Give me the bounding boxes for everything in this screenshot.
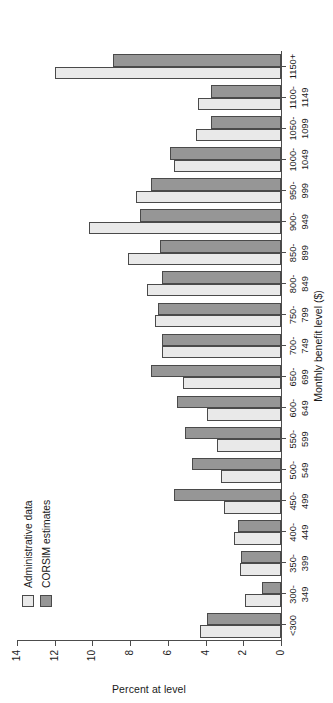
bar-administrative-data: [55, 67, 281, 79]
figure-rotator: Administrative data CORSIM estimates Per…: [0, 0, 333, 703]
plot-area: 02468101214<300300-349350-399400-449450-…: [17, 51, 281, 641]
category-axis-label: 650-699: [288, 368, 311, 387]
category-axis-label: 750-799: [288, 306, 311, 325]
bar-administrative-data: [200, 626, 281, 638]
bar-corsim-estimates: [262, 582, 281, 594]
value-axis-tick: 6: [168, 641, 169, 646]
category-axis-tick: [281, 593, 286, 594]
bar-administrative-data: [155, 315, 281, 327]
category-axis-tick: [281, 128, 286, 129]
bar-administrative-data: [147, 284, 281, 296]
value-axis-tick: 12: [55, 641, 56, 646]
category-axis-tick: [281, 252, 286, 253]
category-axis-label: 1150+: [288, 54, 300, 79]
bar-administrative-data: [136, 191, 281, 203]
category-axis-tick: [281, 469, 286, 470]
bar-corsim-estimates: [238, 520, 281, 532]
bar-group: 800-849: [17, 268, 281, 299]
bar-group: 350-399: [17, 548, 281, 579]
bar-corsim-estimates: [158, 303, 281, 315]
category-axis-tick: [281, 345, 286, 346]
category-axis-label: 900-949: [288, 213, 311, 232]
category-axis-label: 350-399: [288, 554, 311, 573]
bar-group: <300: [17, 610, 281, 641]
bar-corsim-estimates: [113, 54, 281, 66]
bar-corsim-estimates: [192, 458, 281, 470]
bar-group: 700-749: [17, 330, 281, 361]
bar-administrative-data: [217, 439, 281, 451]
category-axis-label: 1050-1099: [288, 117, 311, 141]
value-axis-tick: 0: [281, 641, 282, 646]
category-axis-label: 1000-1049: [288, 148, 311, 172]
category-axis-tick: [281, 624, 286, 625]
bar-corsim-estimates: [241, 551, 281, 563]
value-axis-tick: 4: [206, 641, 207, 646]
value-axis-tick-label: 12: [48, 650, 61, 661]
bar-administrative-data: [174, 160, 281, 172]
value-axis-tick-label: 8: [123, 650, 136, 656]
category-axis-title: Monthly benefit level ($): [312, 51, 324, 641]
bar-group: 950-999: [17, 175, 281, 206]
category-axis-tick: [281, 438, 286, 439]
category-axis-tick: [281, 531, 286, 532]
category-axis-tick: [281, 314, 286, 315]
bar-group: 1150+: [17, 51, 281, 82]
bar-corsim-estimates: [162, 334, 281, 346]
bar-administrative-data: [234, 532, 281, 544]
bar-group: 400-449: [17, 517, 281, 548]
bar-chart: Administrative data CORSIM estimates Per…: [0, 0, 333, 703]
value-axis-tick-label: 6: [161, 650, 174, 656]
category-axis-label: 700-749: [288, 337, 311, 356]
bar-administrative-data: [196, 129, 281, 141]
bar-administrative-data: [128, 253, 281, 265]
category-axis-label: 500-549: [288, 461, 311, 480]
bar-corsim-estimates: [151, 365, 281, 377]
bar-group: 550-599: [17, 424, 281, 455]
bar-administrative-data: [224, 501, 281, 513]
category-axis-tick: [281, 407, 286, 408]
value-axis-tick: 14: [17, 641, 18, 646]
bar-corsim-estimates: [140, 209, 281, 221]
value-axis-tick-label: 10: [85, 650, 98, 661]
category-axis-label: 600-649: [288, 399, 311, 418]
bar-group: 300-349: [17, 579, 281, 610]
value-axis-title: Percent at level: [17, 683, 281, 697]
value-axis-tick-label: 0: [274, 650, 287, 656]
bar-administrative-data: [162, 346, 281, 358]
bar-group: 450-499: [17, 486, 281, 517]
bar-corsim-estimates: [151, 178, 281, 190]
bar-group: 600-649: [17, 393, 281, 424]
bar-group: 1000-1049: [17, 144, 281, 175]
bar-administrative-data: [198, 98, 281, 110]
bar-administrative-data: [207, 408, 281, 420]
category-axis-label: 450-499: [288, 492, 311, 511]
category-axis-tick: [281, 97, 286, 98]
value-axis-tick: 2: [243, 641, 244, 646]
category-axis-label: 400-449: [288, 523, 311, 542]
category-axis-label: 850-899: [288, 244, 311, 263]
value-axis-tick-label: 2: [236, 650, 249, 656]
category-axis-tick: [281, 159, 286, 160]
category-axis-tick: [281, 500, 286, 501]
category-axis-tick: [281, 66, 286, 67]
bar-corsim-estimates: [177, 396, 281, 408]
category-axis-tick: [281, 221, 286, 222]
category-axis-label: 550-599: [288, 430, 311, 449]
bar-group: 750-799: [17, 299, 281, 330]
category-axis-tick: [281, 283, 286, 284]
bar-group: 650-699: [17, 362, 281, 393]
bar-administrative-data: [183, 377, 281, 389]
category-axis-label: 300-349: [288, 585, 311, 604]
bar-corsim-estimates: [170, 147, 281, 159]
category-axis-label: <300: [288, 615, 300, 636]
category-axis-tick: [281, 376, 286, 377]
bar-corsim-estimates: [211, 85, 281, 97]
bar-corsim-estimates: [162, 272, 281, 284]
bar-administrative-data: [89, 222, 281, 234]
bar-corsim-estimates: [160, 240, 281, 252]
value-axis-tick: 8: [130, 641, 131, 646]
bar-corsim-estimates: [185, 427, 281, 439]
bar-corsim-estimates: [207, 613, 281, 625]
bar-group: 1100-1149: [17, 82, 281, 113]
category-axis-tick: [281, 190, 286, 191]
